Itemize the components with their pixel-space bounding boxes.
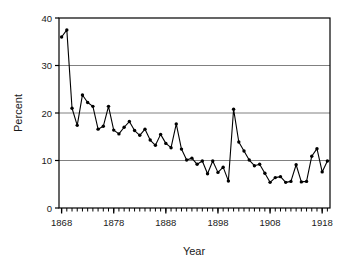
- data-point-1882: [133, 129, 136, 132]
- data-point-1908: [268, 181, 271, 184]
- data-point-1892: [185, 158, 188, 161]
- data-point-1887: [159, 133, 162, 136]
- data-point-1917: [315, 147, 318, 150]
- y-tick-label-10: 10: [41, 155, 52, 166]
- data-point-1889: [169, 146, 172, 149]
- data-point-1909: [274, 176, 277, 179]
- data-point-1888: [164, 142, 167, 145]
- line-chart: 010203040 186818781888189819081918 Perce…: [0, 0, 362, 266]
- data-point-1905: [253, 164, 256, 167]
- data-point-1899: [221, 165, 224, 168]
- data-point-1883: [138, 134, 141, 137]
- data-point-1869: [65, 28, 68, 31]
- data-point-1901: [232, 108, 235, 111]
- y-tick-label-40: 40: [41, 13, 52, 24]
- data-point-1890: [175, 122, 178, 125]
- data-point-1919: [326, 159, 329, 162]
- data-point-1881: [128, 120, 131, 123]
- data-point-1900: [227, 179, 230, 182]
- x-tick-label-1918: 1918: [312, 217, 333, 228]
- data-point-1871: [76, 124, 79, 127]
- x-tick-label-1908: 1908: [259, 217, 280, 228]
- data-point-1915: [305, 180, 308, 183]
- data-point-1874: [91, 105, 94, 108]
- y-tick-label-30: 30: [41, 60, 52, 71]
- data-point-1904: [248, 158, 251, 161]
- data-point-1868: [60, 35, 63, 38]
- data-point-1911: [284, 181, 287, 184]
- data-point-1873: [86, 101, 89, 104]
- data-point-1891: [180, 147, 183, 150]
- x-axis-title: Year: [183, 245, 206, 257]
- data-point-1914: [300, 180, 303, 183]
- data-point-1885: [149, 138, 152, 141]
- data-point-1886: [154, 144, 157, 147]
- data-point-1903: [242, 149, 245, 152]
- y-tick-label-0: 0: [47, 203, 52, 214]
- data-point-1912: [289, 180, 292, 183]
- data-point-1918: [320, 170, 323, 173]
- y-axis-title: Percent: [12, 94, 24, 132]
- data-point-1910: [279, 175, 282, 178]
- data-point-1898: [216, 171, 219, 174]
- data-point-1880: [122, 126, 125, 129]
- data-point-1913: [294, 163, 297, 166]
- x-tick-label-1868: 1868: [51, 217, 72, 228]
- data-point-1875: [96, 127, 99, 130]
- data-point-1879: [117, 132, 120, 135]
- data-point-1870: [70, 107, 73, 110]
- data-point-1896: [206, 172, 209, 175]
- x-tick-label-1878: 1878: [103, 217, 124, 228]
- data-point-1876: [102, 125, 105, 128]
- x-tick-label-1888: 1888: [155, 217, 176, 228]
- data-point-1907: [263, 172, 266, 175]
- data-point-1902: [237, 140, 240, 143]
- x-tick-label-1898: 1898: [207, 217, 228, 228]
- data-point-1906: [258, 163, 261, 166]
- data-point-1893: [190, 156, 193, 159]
- data-point-1877: [107, 105, 110, 108]
- data-point-1872: [81, 93, 84, 96]
- data-point-1916: [310, 155, 313, 158]
- data-point-1884: [143, 127, 146, 130]
- y-tick-label-20: 20: [41, 108, 52, 119]
- data-point-1894: [195, 163, 198, 166]
- data-point-1895: [201, 159, 204, 162]
- data-point-1878: [112, 128, 115, 131]
- data-point-1897: [211, 159, 214, 162]
